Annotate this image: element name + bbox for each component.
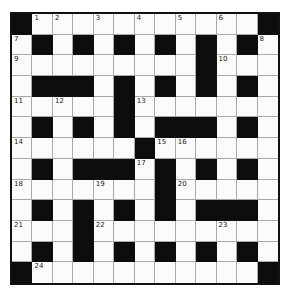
grid-cell[interactable]	[176, 76, 196, 97]
grid-cell[interactable]	[53, 138, 73, 159]
grid-cell[interactable]: 7	[12, 35, 32, 56]
grid-cell[interactable]	[196, 221, 216, 242]
grid-cell[interactable]	[53, 55, 73, 76]
grid-cell[interactable]	[155, 262, 175, 283]
grid-cell[interactable]: 13	[135, 97, 155, 118]
grid-cell[interactable]	[237, 97, 257, 118]
grid-cell[interactable]	[217, 159, 237, 180]
grid-cell[interactable]	[258, 159, 278, 180]
grid-cell[interactable]	[53, 117, 73, 138]
grid-cell[interactable]: 12	[53, 97, 73, 118]
grid-cell[interactable]	[155, 221, 175, 242]
grid-cell[interactable]	[94, 200, 114, 221]
grid-cell[interactable]	[135, 242, 155, 263]
grid-cell[interactable]	[217, 242, 237, 263]
grid-cell[interactable]	[94, 117, 114, 138]
grid-cell[interactable]	[73, 97, 93, 118]
grid-cell[interactable]: 23	[217, 221, 237, 242]
grid-cell[interactable]	[258, 117, 278, 138]
grid-cell[interactable]	[94, 262, 114, 283]
grid-cell[interactable]	[196, 180, 216, 201]
grid-cell[interactable]	[258, 138, 278, 159]
grid-cell[interactable]	[258, 242, 278, 263]
grid-cell[interactable]	[217, 180, 237, 201]
grid-cell[interactable]	[176, 221, 196, 242]
grid-cell[interactable]: 9	[12, 55, 32, 76]
grid-cell[interactable]	[32, 180, 52, 201]
grid-cell[interactable]: 2	[53, 14, 73, 35]
grid-cell[interactable]: 8	[258, 35, 278, 56]
grid-cell[interactable]	[12, 242, 32, 263]
grid-cell[interactable]: 3	[94, 14, 114, 35]
grid-cell[interactable]	[135, 55, 155, 76]
grid-cell[interactable]	[237, 14, 257, 35]
grid-cell[interactable]	[53, 35, 73, 56]
grid-cell[interactable]	[32, 138, 52, 159]
grid-cell[interactable]: 1	[32, 14, 52, 35]
grid-cell[interactable]	[258, 221, 278, 242]
grid-cell[interactable]	[94, 55, 114, 76]
grid-cell[interactable]: 17	[135, 159, 155, 180]
grid-cell[interactable]	[53, 200, 73, 221]
grid-cell[interactable]	[53, 242, 73, 263]
grid-cell[interactable]: 24	[32, 262, 52, 283]
grid-cell[interactable]	[94, 138, 114, 159]
grid-cell[interactable]: 10	[217, 55, 237, 76]
grid-cell[interactable]	[53, 159, 73, 180]
grid-cell[interactable]	[135, 262, 155, 283]
grid-cell[interactable]	[217, 97, 237, 118]
grid-cell[interactable]	[196, 14, 216, 35]
grid-cell[interactable]	[176, 35, 196, 56]
grid-cell[interactable]	[135, 221, 155, 242]
grid-cell[interactable]	[12, 200, 32, 221]
grid-cell[interactable]	[196, 138, 216, 159]
grid-cell[interactable]	[73, 262, 93, 283]
grid-cell[interactable]	[237, 138, 257, 159]
grid-cell[interactable]	[94, 35, 114, 56]
grid-cell[interactable]	[53, 262, 73, 283]
grid-cell[interactable]	[94, 76, 114, 97]
grid-cell[interactable]	[217, 117, 237, 138]
grid-cell[interactable]	[237, 262, 257, 283]
grid-cell[interactable]: 4	[135, 14, 155, 35]
grid-cell[interactable]	[176, 159, 196, 180]
grid-cell[interactable]	[176, 242, 196, 263]
grid-cell[interactable]: 16	[176, 138, 196, 159]
grid-cell[interactable]	[73, 138, 93, 159]
grid-cell[interactable]: 11	[12, 97, 32, 118]
grid-cell[interactable]	[32, 97, 52, 118]
grid-cell[interactable]	[135, 180, 155, 201]
grid-cell[interactable]	[237, 221, 257, 242]
grid-cell[interactable]	[114, 221, 134, 242]
grid-cell[interactable]	[135, 117, 155, 138]
grid-cell[interactable]	[12, 117, 32, 138]
grid-cell[interactable]	[217, 35, 237, 56]
grid-cell[interactable]	[135, 76, 155, 97]
grid-cell[interactable]: 18	[12, 180, 32, 201]
grid-cell[interactable]	[12, 159, 32, 180]
grid-cell[interactable]	[258, 97, 278, 118]
grid-cell[interactable]	[94, 242, 114, 263]
grid-cell[interactable]: 15	[155, 138, 175, 159]
grid-cell[interactable]	[53, 221, 73, 242]
grid-cell[interactable]	[176, 200, 196, 221]
grid-cell[interactable]	[176, 97, 196, 118]
grid-cell[interactable]	[135, 200, 155, 221]
grid-cell[interactable]: 14	[12, 138, 32, 159]
grid-cell[interactable]	[94, 97, 114, 118]
grid-cell[interactable]	[258, 200, 278, 221]
grid-cell[interactable]	[258, 180, 278, 201]
grid-cell[interactable]	[114, 138, 134, 159]
grid-cell[interactable]	[155, 97, 175, 118]
grid-cell[interactable]: 20	[176, 180, 196, 201]
grid-cell[interactable]	[217, 138, 237, 159]
grid-cell[interactable]	[53, 180, 73, 201]
grid-cell[interactable]	[217, 76, 237, 97]
grid-cell[interactable]	[135, 35, 155, 56]
grid-cell[interactable]	[73, 180, 93, 201]
grid-cell[interactable]	[73, 14, 93, 35]
grid-cell[interactable]: 19	[94, 180, 114, 201]
grid-cell[interactable]	[258, 55, 278, 76]
grid-cell[interactable]	[237, 55, 257, 76]
grid-cell[interactable]: 21	[12, 221, 32, 242]
